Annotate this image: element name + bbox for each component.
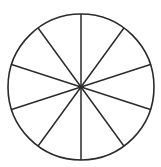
divided-circle-diagram — [0, 0, 161, 167]
center-point — [79, 85, 82, 88]
